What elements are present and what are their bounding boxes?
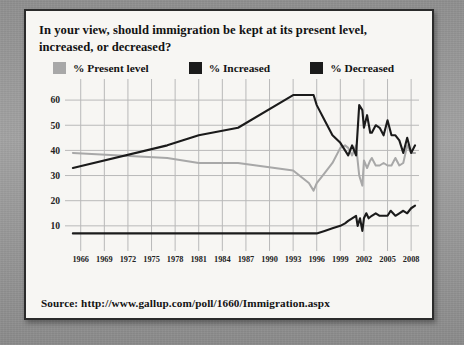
x-axis-tick-label: 1999 <box>332 255 349 264</box>
legend-swatch-present-level <box>53 62 66 74</box>
y-axis-tick-label: 60 <box>50 95 60 106</box>
y-axis-tick-label: 10 <box>50 221 60 232</box>
page-background: In your view, should immigration be kept… <box>0 0 464 345</box>
x-axis-tick-label: 1966 <box>72 255 89 264</box>
x-axis-tick-label: 1987 <box>238 255 255 264</box>
legend-swatch-increased <box>189 62 202 74</box>
x-axis-tick-label: 1972 <box>120 255 137 264</box>
legend-label-present-level: % Present level <box>73 62 149 74</box>
x-axis-tick-label: 1978 <box>167 255 184 264</box>
x-axis-tick-label: 2005 <box>379 255 396 264</box>
legend-label-decreased: % Decreased <box>330 62 394 74</box>
chart-plot-area: 1020304050601966196919721975197819811984… <box>39 79 423 275</box>
page-title: In your view, should immigration be kept… <box>39 22 411 55</box>
x-axis-tick-label: 2008 <box>403 255 420 264</box>
x-axis-tick-label: 1969 <box>96 255 113 264</box>
legend-item-present-level: % Present level <box>53 62 149 74</box>
x-axis-tick-label: 1990 <box>261 255 278 264</box>
x-axis-tick-label: 1981 <box>190 255 207 264</box>
x-axis-tick-label: 1984 <box>214 255 231 264</box>
y-axis-tick-label: 30 <box>50 170 60 181</box>
y-axis-tick-label: 20 <box>50 196 60 207</box>
y-axis-tick-label: 40 <box>50 145 60 156</box>
x-axis-tick-label: 1996 <box>308 255 325 264</box>
x-axis-tick-label: 1993 <box>285 255 302 264</box>
y-axis-tick-label: 50 <box>50 120 60 131</box>
legend-label-increased: % Increased <box>209 62 271 74</box>
legend-item-increased: % Increased <box>189 62 271 74</box>
line-chart-svg: 1020304050601966196919721975197819811984… <box>39 79 423 275</box>
x-axis-tick-label: 2002 <box>356 255 373 264</box>
chart-card: In your view, should immigration be kept… <box>24 9 434 320</box>
x-axis-tick-label: 1975 <box>143 255 160 264</box>
chart-legend: % Present level % Increased % Decreased <box>53 62 419 74</box>
source-citation: Source: http://www.gallup.com/poll/1660/… <box>41 297 330 309</box>
legend-swatch-decreased <box>310 62 323 74</box>
legend-item-decreased: % Decreased <box>310 62 394 74</box>
